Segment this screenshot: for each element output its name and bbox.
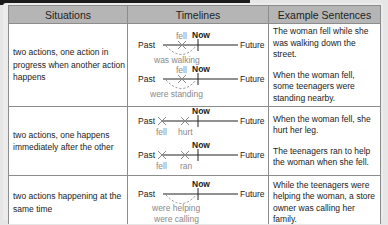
now-label: Now	[192, 140, 210, 150]
future-label: Future	[240, 150, 265, 160]
timeline: Past fell Now Future were standing	[128, 65, 268, 99]
header-example-sentences: Example Sentences	[269, 6, 381, 24]
past-continuous-table: Situations Timelines Example Sentences t…	[8, 5, 381, 224]
action-label: fell	[156, 127, 167, 137]
situation-cell: two actions, one action in progress when…	[9, 24, 128, 107]
example-sentence: When the woman fell, some teenagers were…	[273, 70, 376, 105]
progress-label: were calling	[154, 214, 199, 224]
action-label: ran	[180, 161, 192, 171]
timeline-cell: Past Now Future were helping were callin…	[128, 176, 269, 225]
timeline-cell: Past Now Future fell hurt Past Now Futur…	[128, 107, 269, 176]
future-label: Future	[240, 116, 265, 126]
past-label: Past	[138, 189, 155, 199]
table-row: two actions, one action in progress when…	[9, 24, 381, 107]
action-label: fell	[156, 161, 167, 171]
table-row: two actions happening at the same time P…	[9, 176, 381, 225]
now-label: Now	[192, 106, 210, 116]
now-label: Now	[192, 30, 210, 40]
example-cell: The woman fell while she was walking dow…	[269, 24, 381, 107]
now-label: Now	[192, 64, 210, 74]
past-label: Past	[138, 150, 155, 160]
example-sentence: The woman fell while she was walking dow…	[273, 26, 376, 61]
header-situations: Situations	[9, 6, 128, 24]
future-label: Future	[240, 189, 265, 199]
header-row: Situations Timelines Example Sentences	[9, 6, 381, 24]
future-label: Future	[240, 74, 265, 84]
example-sentence: The teenagers ran to help the woman when…	[273, 146, 376, 169]
header-timelines: Timelines	[128, 6, 269, 24]
example-cell: While the teenagers were helping the wom…	[269, 176, 381, 225]
future-label: Future	[240, 40, 265, 50]
timeline: Past Now Future fell ran	[128, 141, 268, 175]
example-sentence: While the teenagers were helping the wom…	[273, 180, 376, 225]
past-label: Past	[138, 40, 155, 50]
timeline: Past fell Now Future was walking	[128, 31, 268, 65]
table-row: two actions, one happens immediately aft…	[9, 107, 381, 176]
example-cell: When the woman fell, she hurt her leg. T…	[269, 107, 381, 176]
now-label: Now	[192, 179, 210, 189]
progress-label: were standing	[150, 89, 203, 99]
timeline-cell: Past fell Now Future was walking Past fe…	[128, 24, 269, 107]
action-label: fell	[176, 65, 187, 75]
past-label: Past	[138, 74, 155, 84]
example-sentence: When the woman fell, she hurt her leg.	[273, 114, 376, 137]
timeline: Past Now Future fell hurt	[128, 107, 268, 141]
situation-cell: two actions happening at the same time	[9, 176, 128, 225]
situation-cell: two actions, one happens immediately aft…	[9, 107, 128, 176]
past-label: Past	[138, 116, 155, 126]
progress-label: were helping	[152, 203, 200, 213]
action-label: hurt	[178, 127, 193, 137]
timeline: Past Now Future were helping were callin…	[128, 180, 268, 225]
action-label: fell	[176, 31, 187, 41]
